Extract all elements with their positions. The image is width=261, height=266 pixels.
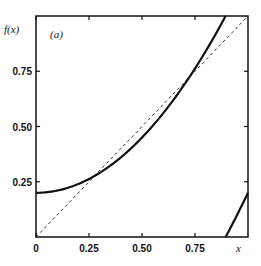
identity-line: [36, 16, 248, 237]
x-tick-label: 0: [33, 243, 39, 254]
map-plot: 00.250.500.750.250.500.75 f(x) x (a): [0, 0, 261, 266]
y-tick-label: 0.25: [13, 177, 33, 188]
map-curve: [36, 16, 226, 193]
x-tick-label: 0.50: [132, 243, 152, 254]
x-axis-label: x: [235, 242, 241, 254]
y-tick-label: 0.50: [13, 122, 33, 133]
panel-label: (a): [50, 28, 63, 41]
y-tick-label: 0.75: [13, 66, 33, 77]
x-tick-label: 0.25: [79, 243, 99, 254]
x-tick-label: 0.75: [185, 243, 205, 254]
map-curve-wrapped: [226, 193, 248, 237]
y-axis-label: f(x): [4, 23, 20, 36]
